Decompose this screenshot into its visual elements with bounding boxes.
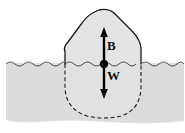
- buoyancy-force-label: B: [107, 39, 116, 52]
- buoyancy-diagram: B W: [0, 0, 185, 133]
- center-of-mass-dot: [100, 60, 108, 68]
- weight-force-label: W: [107, 69, 120, 82]
- diagram-canvas: [0, 0, 185, 133]
